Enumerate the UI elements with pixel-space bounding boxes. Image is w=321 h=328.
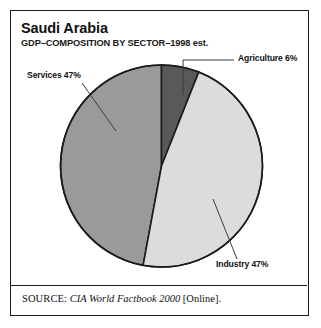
pie-label-services: Services 47%: [27, 70, 81, 80]
source-divider: [11, 285, 307, 286]
pie-chart-svg: [0, 0, 321, 328]
pie-slice-services[interactable]: [61, 65, 162, 265]
pie-label-agriculture: Agriculture 6%: [238, 53, 297, 63]
pie-chart: [0, 0, 321, 328]
source-prefix: SOURCE:: [22, 293, 67, 304]
source-line: SOURCE: CIA World Factbook 2000 [Online]…: [22, 293, 221, 304]
source-suffix: [Online].: [183, 293, 221, 304]
source-title: CIA World Factbook 2000: [70, 293, 181, 304]
pie-label-industry: Industry 47%: [216, 259, 268, 269]
figure-panel: Saudi Arabia GDP–COMPOSITION BY SECTOR–1…: [0, 0, 321, 328]
